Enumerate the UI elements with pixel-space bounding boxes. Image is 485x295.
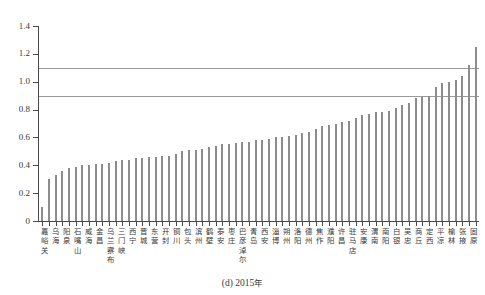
x-tick-mark <box>136 222 137 226</box>
x-axis-category-label: 滨州 <box>193 227 204 246</box>
bar <box>415 98 417 221</box>
bar <box>248 142 250 221</box>
bar <box>468 65 470 221</box>
label-char: 安 <box>215 236 226 245</box>
x-tick-mark <box>262 222 263 226</box>
label-char: 鹤 <box>204 227 215 236</box>
x-tick-mark <box>442 222 443 226</box>
label-char: 德 <box>303 227 314 236</box>
x-tick-mark <box>256 222 257 226</box>
label-char: 枣 <box>226 227 237 236</box>
bar <box>61 171 63 221</box>
bar <box>195 150 197 221</box>
label-char: 丘 <box>413 236 424 245</box>
bar <box>268 139 270 221</box>
label-char: 洛 <box>292 227 303 236</box>
x-tick-mark <box>176 222 177 226</box>
x-axis-category-label: 铜川 <box>171 227 182 246</box>
x-tick-mark <box>109 222 110 226</box>
x-tick-mark <box>282 222 283 226</box>
x-tick-mark <box>82 222 83 226</box>
x-tick-mark <box>349 222 350 226</box>
bar <box>135 158 137 221</box>
x-tick-mark <box>376 222 377 226</box>
bar <box>241 142 243 221</box>
x-tick-mark <box>149 222 150 226</box>
x-axis-category-label: 张掖 <box>457 227 468 246</box>
label-char: 海 <box>50 236 61 245</box>
label-char: 布 <box>105 255 116 264</box>
x-tick-mark <box>49 222 50 226</box>
x-axis-category-label: 商丘 <box>413 227 424 246</box>
caption-year: 2015 <box>235 278 254 288</box>
x-axis-category-label: 乌兰察布 <box>105 227 116 264</box>
bar <box>81 165 83 221</box>
label-char: 康 <box>358 236 369 245</box>
x-tick-mark <box>309 222 310 226</box>
label-char: 南 <box>369 236 380 245</box>
bar <box>68 168 70 221</box>
x-tick-mark <box>202 222 203 226</box>
x-axis-category-label: 威海 <box>83 227 94 246</box>
x-tick-mark <box>62 222 63 226</box>
label-char: 三 <box>116 227 127 236</box>
x-tick-mark <box>396 222 397 226</box>
x-tick-mark <box>216 222 217 226</box>
label-char: 壁 <box>204 236 215 245</box>
label-char: 州 <box>281 236 292 245</box>
y-tick-label: 1.2 <box>0 49 30 58</box>
label-char: 石 <box>72 227 83 236</box>
x-tick-mark <box>169 222 170 226</box>
bar <box>461 76 463 221</box>
x-tick-mark <box>469 222 470 226</box>
x-axis-category-label: 泰安 <box>215 227 226 246</box>
label-char: 南 <box>380 227 391 236</box>
label-char: 嘉 <box>39 227 50 236</box>
x-tick-mark <box>182 222 183 226</box>
x-tick-mark <box>449 222 450 226</box>
y-tick-mark <box>33 26 38 27</box>
x-axis-category-label: 青岛 <box>248 227 259 246</box>
label-char: 包 <box>182 227 193 236</box>
x-axis-category-label: 乌海 <box>50 227 61 246</box>
x-tick-mark <box>329 222 330 226</box>
bar <box>395 108 397 221</box>
label-char: 青 <box>248 227 259 236</box>
x-tick-mark <box>102 222 103 226</box>
bar <box>41 207 43 221</box>
bar <box>235 143 237 221</box>
x-axis-category-label: 吴忠 <box>402 227 413 246</box>
bar <box>55 175 57 221</box>
x-tick-mark <box>389 222 390 226</box>
x-tick-mark <box>289 222 290 226</box>
bar <box>401 105 403 221</box>
bar <box>355 118 357 221</box>
bar <box>448 82 450 221</box>
x-tick-mark <box>342 222 343 226</box>
x-axis-category-label: 白银 <box>391 227 402 246</box>
y-tick-label: 0.8 <box>0 105 30 114</box>
bar <box>108 163 110 222</box>
bar <box>95 164 97 221</box>
bar <box>101 164 103 221</box>
label-char: 晋 <box>138 227 149 236</box>
bar <box>421 97 423 221</box>
x-tick-mark <box>129 222 130 226</box>
x-tick-mark <box>402 222 403 226</box>
y-tick-mark <box>33 82 38 83</box>
x-tick-mark <box>236 222 237 226</box>
x-axis-category-label: 开封 <box>160 227 171 246</box>
bar <box>368 114 370 221</box>
bar <box>128 160 130 221</box>
x-tick-mark <box>322 222 323 226</box>
x-axis-category-label: 安康 <box>358 227 369 246</box>
bar <box>228 144 230 221</box>
bar <box>315 129 317 221</box>
x-tick-mark <box>89 222 90 226</box>
bar <box>281 137 283 221</box>
x-tick-mark <box>422 222 423 226</box>
x-axis-category-label: 朔州 <box>281 227 292 246</box>
label-char: 察 <box>105 246 116 255</box>
x-axis-category-label: 渭南 <box>369 227 380 246</box>
y-tick-mark <box>33 165 38 166</box>
